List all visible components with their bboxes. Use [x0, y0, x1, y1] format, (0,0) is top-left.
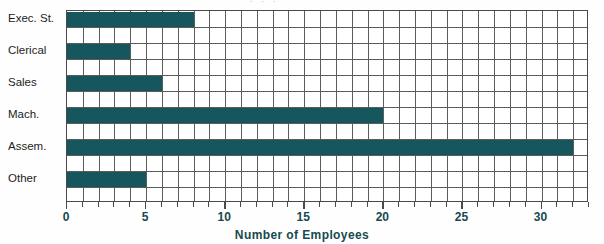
category-label-sales: Sales: [0, 75, 56, 89]
x-tick-label: 15: [297, 210, 310, 224]
category-label-clerical: Clerical: [0, 43, 56, 57]
x-tick-minor: [129, 202, 130, 207]
x-tick-minor: [525, 202, 526, 207]
category-label-mach: Mach.: [0, 107, 56, 121]
category-label-other: Other: [0, 171, 56, 185]
x-tick-minor: [98, 202, 99, 207]
x-tick-major: [66, 202, 67, 209]
category-label-exec-st: Exec. St.: [0, 11, 56, 25]
bar: [67, 12, 194, 27]
x-tick-minor: [193, 202, 194, 207]
x-tick-minor: [208, 202, 209, 207]
plot-area: [66, 10, 588, 202]
x-tick-minor: [477, 202, 478, 207]
category-label-assem: Assem.: [0, 139, 56, 153]
x-tick-minor: [398, 202, 399, 207]
x-tick-minor: [319, 202, 320, 207]
x-tick-minor: [113, 202, 114, 207]
category-axis-labels: Exec. St.ClericalSalesMach.Assem.Other: [0, 10, 62, 202]
x-tick-minor: [493, 202, 494, 207]
bar: [67, 108, 383, 123]
x-tick-minor: [351, 202, 352, 207]
x-tick-minor: [177, 202, 178, 207]
x-tick-minor: [446, 202, 447, 207]
x-tick-label: 10: [217, 210, 230, 224]
x-tick-minor: [414, 202, 415, 207]
x-tick-label: 5: [142, 210, 149, 224]
x-tick-major: [224, 202, 225, 209]
x-tick-minor: [287, 202, 288, 207]
cut-off-title-remnant: · · ·: [250, 0, 370, 4]
x-tick-label: 25: [455, 210, 468, 224]
x-axis: 051015202530: [66, 202, 588, 228]
x-tick-minor: [509, 202, 510, 207]
x-tick-minor: [272, 202, 273, 207]
x-tick-major: [461, 202, 462, 209]
x-tick-minor: [335, 202, 336, 207]
bar: [67, 172, 146, 187]
x-tick-minor: [82, 202, 83, 207]
chart-page: · · · Exec. St.ClericalSalesMach.Assem.O…: [0, 0, 604, 244]
x-axis-title: Number of Employees: [0, 228, 604, 242]
x-tick-label: 20: [376, 210, 389, 224]
bar: [67, 76, 162, 91]
x-tick-minor: [572, 202, 573, 207]
x-tick-minor: [256, 202, 257, 207]
x-tick-minor: [161, 202, 162, 207]
x-tick-major: [382, 202, 383, 209]
x-tick-minor: [556, 202, 557, 207]
x-tick-label: 30: [534, 210, 547, 224]
x-tick-minor: [588, 202, 589, 207]
x-tick-major: [303, 202, 304, 209]
x-tick-major: [145, 202, 146, 209]
bar: [67, 44, 130, 59]
x-tick-minor: [367, 202, 368, 207]
bar: [67, 140, 573, 155]
x-tick-major: [541, 202, 542, 209]
x-tick-minor: [430, 202, 431, 207]
bar-series: [67, 11, 587, 201]
x-tick-minor: [240, 202, 241, 207]
x-tick-label: 0: [63, 210, 70, 224]
